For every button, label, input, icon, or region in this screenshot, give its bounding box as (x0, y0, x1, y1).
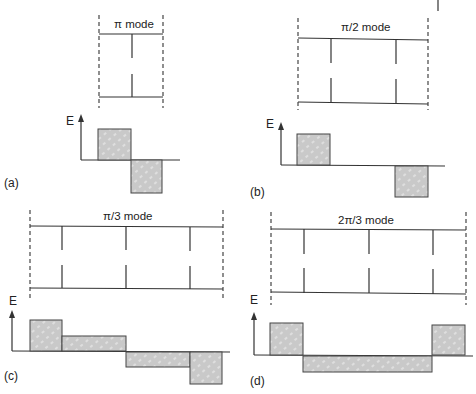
field-bar (432, 325, 465, 355)
axis-label-e: E (66, 114, 74, 128)
field-bar (126, 352, 190, 367)
field-bar (190, 352, 222, 384)
panel-d: 2π/3 mode E (d) (250, 212, 473, 388)
panel-a: π mode E (a) (4, 15, 180, 193)
arrow-up-icon (78, 114, 84, 122)
field-bar (62, 336, 126, 351)
figure-canvas: π mode E (a) π/2 mode E (0, 0, 476, 394)
panel-label: (c) (4, 369, 18, 383)
cavity-structure (30, 210, 223, 298)
field-plot: E (66, 114, 180, 193)
field-bar-negative (395, 166, 428, 197)
panel-c: π/3 mode E (c) (4, 210, 230, 384)
mode-title: π/3 mode (103, 210, 153, 222)
field-bar (303, 356, 432, 372)
field-bar (30, 320, 62, 351)
field-bar-positive (297, 134, 330, 165)
arrow-up-icon (9, 310, 15, 318)
panel-b: π/2 mode E (b) (250, 18, 445, 199)
mode-title: 2π/3 mode (338, 214, 394, 226)
mode-diagram: π mode E (a) π/2 mode E (0, 0, 476, 394)
panel-label: (a) (4, 176, 19, 190)
field-bar-positive (98, 129, 131, 160)
field-bar-negative (131, 160, 162, 193)
arrow-up-icon (278, 122, 284, 130)
mode-title: π mode (114, 18, 154, 30)
field-bar (270, 323, 303, 355)
axis-label-e: E (9, 294, 17, 308)
field-plot: E (266, 117, 445, 197)
axis-label-e: E (266, 117, 274, 131)
field-plot: E (9, 294, 230, 384)
mode-title: π/2 mode (341, 21, 391, 33)
field-plot: E (250, 293, 473, 372)
panel-label: (b) (250, 185, 265, 199)
arrow-up-icon (251, 312, 257, 320)
panel-label: (d) (250, 374, 265, 388)
axis-label-e: E (250, 293, 258, 307)
